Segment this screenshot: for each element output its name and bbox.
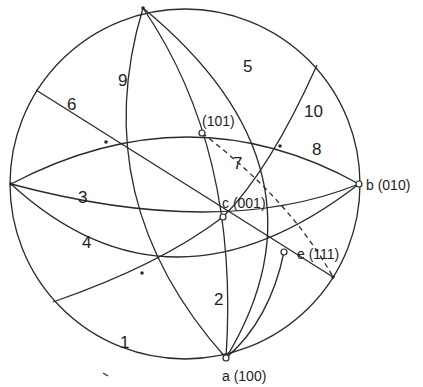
pole-101 <box>199 130 205 136</box>
zone-number-8: 8 <box>312 140 321 159</box>
zone-number-3: 3 <box>78 188 87 207</box>
label-101: (101) <box>202 113 235 129</box>
tick-mark <box>103 373 108 376</box>
pole-b <box>356 181 362 187</box>
label-b: b (010) <box>366 177 410 193</box>
pole-a <box>223 355 229 361</box>
node-upper-left <box>104 140 108 144</box>
zone-number-9: 9 <box>118 71 127 90</box>
node-upper-right <box>278 144 282 148</box>
pole-e <box>281 249 287 255</box>
pole-c <box>220 214 226 220</box>
label-c: c (001) <box>222 195 266 211</box>
zone-number-7: 7 <box>233 154 242 173</box>
zone-number-5: 5 <box>243 57 252 76</box>
zone-circle-3 <box>11 184 359 212</box>
stereographic-projection: a (100) b (010) c (001) e (111) (101) 1 … <box>0 0 423 387</box>
node-top <box>141 6 145 10</box>
label-e: e (111) <box>297 246 339 262</box>
zone-line-6 <box>36 90 333 277</box>
zone-number-4: 4 <box>82 233 91 252</box>
zone-number-6: 6 <box>67 95 76 114</box>
zone-number-1: 1 <box>120 333 129 352</box>
label-a: a (100) <box>222 368 266 384</box>
zone-number-10: 10 <box>304 102 323 121</box>
zone-circle-8 <box>11 137 359 184</box>
node-lower-left <box>140 271 144 275</box>
zone-number-2: 2 <box>214 290 223 309</box>
node-rim-lower-right <box>331 275 335 279</box>
node-left <box>9 182 13 186</box>
zone-circle-9 <box>126 8 226 358</box>
